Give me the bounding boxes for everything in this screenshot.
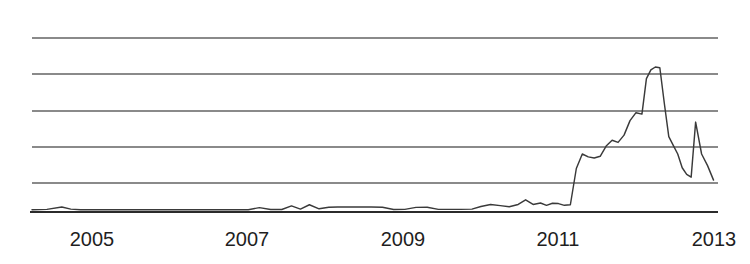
x-tick-label-2013: 2013	[692, 228, 737, 250]
chart-canvas: 20052007200920112013	[0, 0, 750, 264]
x-axis-tick-labels: 20052007200920112013	[70, 228, 737, 250]
x-tick-label-2011: 2011	[536, 228, 579, 250]
x-tick-label-2009: 2009	[381, 228, 426, 250]
plot-series-group	[32, 67, 714, 210]
series-line-1	[32, 67, 714, 210]
gridlines-group	[32, 38, 718, 183]
x-tick-label-2007: 2007	[225, 228, 270, 250]
line-chart-figure: 20052007200920112013	[0, 0, 750, 264]
x-tick-label-2005: 2005	[70, 228, 115, 250]
